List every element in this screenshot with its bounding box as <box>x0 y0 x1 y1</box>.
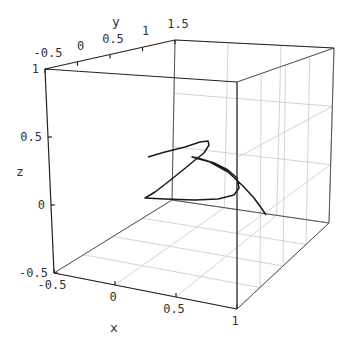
box-edge <box>45 69 237 82</box>
tick-labels: -0.500.51-0.500.511.5-0.500.51 <box>19 17 239 328</box>
y-tick-label: 1 <box>142 24 149 38</box>
y-tick-label: 1.5 <box>167 17 189 31</box>
y-axis-title: y <box>112 14 120 29</box>
grid-lines <box>54 40 334 309</box>
back-wall-grid-line <box>224 43 228 208</box>
floor-grid-line <box>143 218 307 244</box>
box-edge <box>45 69 54 273</box>
y-tick-label: -0.5 <box>34 46 63 60</box>
x-tick-label: 0.5 <box>163 302 185 316</box>
floor-grid-line <box>115 208 224 285</box>
z-tick-label: -0.5 <box>19 266 48 280</box>
z-tick-label: 0.5 <box>20 130 42 144</box>
side-wall-grid-line <box>283 65 286 266</box>
z-axis-title: z <box>16 164 24 179</box>
floor-grid-line <box>84 255 261 288</box>
side-wall-grid-line <box>306 57 310 245</box>
z-tick-label: 1 <box>32 62 39 76</box>
x-tick-label: -0.5 <box>38 278 67 292</box>
y-tick-label: 0 <box>77 39 84 53</box>
x-axis-title: x <box>110 320 118 335</box>
x-tick-label: 0 <box>109 290 116 304</box>
y-tick-label: 0.5 <box>102 32 124 46</box>
3d-plot: -0.500.51-0.500.511.5-0.500.51 x y z <box>0 0 353 348</box>
side-wall-grid-line <box>260 74 261 288</box>
x-tick-label: 1 <box>231 314 238 328</box>
floor-grid-line <box>176 215 277 297</box>
z-tick-label: 0 <box>38 198 45 212</box>
back-wall-grid-line <box>277 45 281 215</box>
box-edge <box>172 200 329 223</box>
box-edge <box>175 40 334 48</box>
box-back-edges <box>54 40 334 309</box>
box-edge <box>54 200 172 273</box>
box-edge <box>329 48 334 223</box>
box-front-edges <box>45 40 334 309</box>
floor-grid-line <box>113 237 283 267</box>
